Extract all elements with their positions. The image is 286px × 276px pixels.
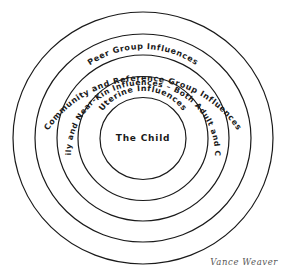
center-label: The Child (116, 133, 171, 143)
influence-diagram: Community and Reference Group Influences… (0, 0, 286, 276)
artist-signature: Vance Weaver (210, 257, 278, 267)
